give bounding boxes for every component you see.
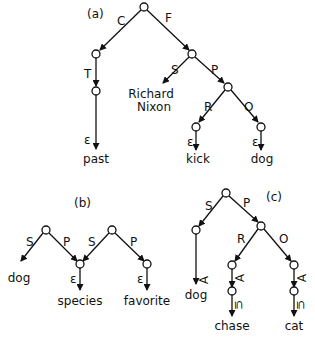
- node-root: [140, 3, 148, 11]
- edge-s2: [83, 233, 109, 261]
- forall-symbol: ∀: [196, 276, 210, 285]
- edge-label-eps: ε: [84, 133, 91, 147]
- edge-label-s: S: [205, 199, 213, 213]
- panel-c: (c) S P R O ∀ ∀ ∀ ⊆ ⊆ dog chase cat: [185, 189, 308, 333]
- leaf-cat: cat: [285, 319, 304, 333]
- semantic-network-diagram: (a) C F T ε S P R O ε ε past Richard Ni: [0, 0, 315, 342]
- panel-a: (a) C F T ε S P R O ε ε past Richard Ni: [83, 3, 273, 166]
- node-t: [92, 87, 100, 95]
- node-c-r: [228, 261, 236, 269]
- leaf-kick: kick: [186, 152, 210, 166]
- panel-b-label: (b): [74, 196, 91, 210]
- panel-a-label: (a): [87, 7, 104, 21]
- edge-label-s: S: [26, 235, 34, 249]
- edge-label-p: P: [130, 235, 137, 249]
- panel-c-label: (c): [266, 190, 282, 204]
- forall-symbol: ∀: [294, 274, 308, 283]
- forall-symbol: ∀: [232, 274, 246, 283]
- edge-label-o: O: [279, 232, 288, 246]
- node-c-root: [222, 189, 230, 197]
- edge-label-s: S: [171, 63, 179, 77]
- leaf-nixon: Nixon: [137, 100, 171, 114]
- panel-b: (b) S P S P ε ε dog species favorite: [8, 196, 170, 308]
- node-b-root2: [108, 226, 116, 234]
- node-c-o: [290, 261, 298, 269]
- edge-label-eps: ε: [252, 135, 259, 149]
- edge-label-p: P: [243, 196, 250, 210]
- leaf-past: past: [83, 152, 109, 166]
- leaf-dog: dog: [251, 152, 274, 166]
- edge-label-t: T: [83, 67, 92, 81]
- edge-label-eps: ε: [187, 135, 194, 149]
- subset-symbol: ⊆: [232, 300, 246, 310]
- edge-label-eps: ε: [137, 272, 144, 286]
- node-b-shared: [76, 260, 84, 268]
- node-c-p: [257, 222, 265, 230]
- node-c-s: [192, 226, 200, 234]
- edge-label-eps: ε: [70, 272, 77, 286]
- edge-label-f: F: [165, 11, 172, 25]
- leaf-chase: chase: [214, 319, 249, 333]
- node-p: [224, 83, 232, 91]
- node-f: [188, 50, 196, 58]
- leaf-favorite: favorite: [124, 294, 170, 308]
- node-c: [92, 50, 100, 58]
- node-o: [257, 123, 265, 131]
- edge-label-s: S: [88, 235, 96, 249]
- leaf-dog: dog: [8, 271, 31, 285]
- subset-symbol: ⊆: [294, 300, 308, 310]
- edge-label-r: R: [204, 100, 212, 114]
- leaf-richard: Richard: [128, 87, 174, 101]
- node-b-right: [143, 260, 151, 268]
- edge-label-p: P: [211, 63, 218, 77]
- edge-label-c: C: [117, 14, 125, 28]
- node-r: [192, 123, 200, 131]
- leaf-species: species: [58, 294, 103, 308]
- edge-label-p: P: [63, 235, 70, 249]
- edge-label-r: R: [237, 232, 245, 246]
- leaf-dog: dog: [185, 288, 208, 302]
- node-c-o2: [290, 287, 298, 295]
- node-b-root1: [42, 226, 50, 234]
- edge-p: [195, 57, 224, 83]
- node-c-r2: [228, 287, 236, 295]
- edge-label-o: O: [244, 100, 253, 114]
